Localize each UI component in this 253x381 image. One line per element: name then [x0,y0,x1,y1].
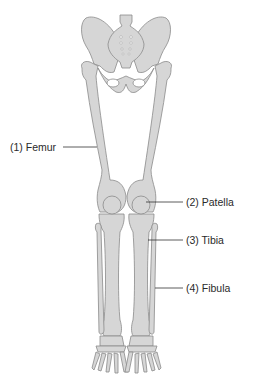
tibia-label: (3) Tibia [186,234,224,246]
femur-label: (1) Femur [10,141,56,153]
left-patella [103,196,121,214]
left-foot [92,336,128,373]
left-fibula [95,223,104,334]
fibula-label: (4) Fibula [186,282,230,294]
patella-label: (2) Patella [186,196,234,208]
right-patella [132,196,150,214]
right-foot [125,336,161,373]
lower-limb-skeleton-diagram [0,0,253,381]
